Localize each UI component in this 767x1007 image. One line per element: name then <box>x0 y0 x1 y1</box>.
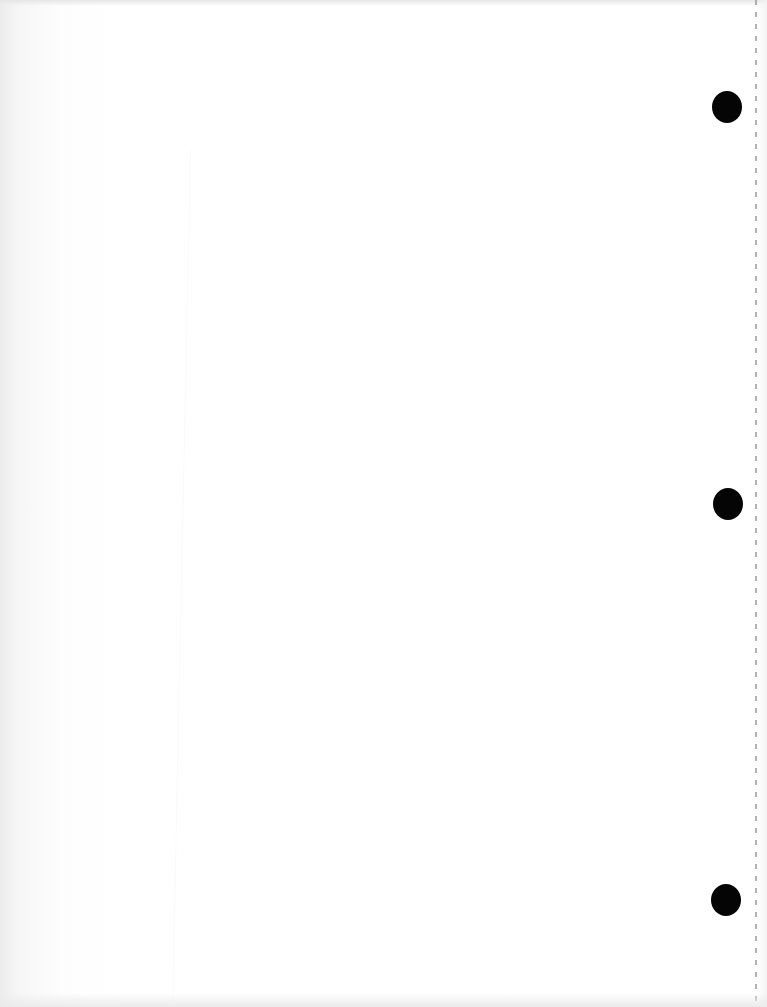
punch-hole-bottom <box>711 884 741 916</box>
bottom-edge-shadow <box>0 993 767 1007</box>
punch-hole-middle <box>713 488 743 520</box>
top-edge-shadow <box>0 0 767 6</box>
paper-fold-line <box>172 150 191 1007</box>
punch-hole-top <box>712 91 742 123</box>
right-edge-shadow <box>757 0 767 1007</box>
scanned-page <box>0 0 767 1007</box>
